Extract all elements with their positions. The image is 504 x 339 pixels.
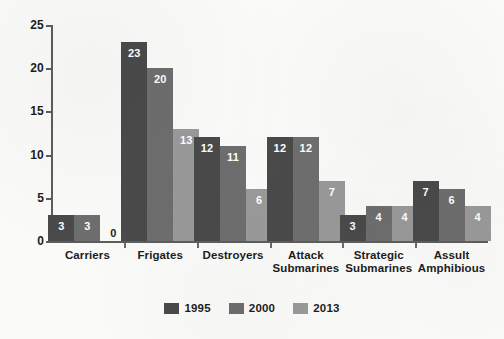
bar-group-bars: 344: [340, 25, 418, 241]
x-tick-mark: [124, 243, 126, 248]
bar-value-label: 4: [366, 211, 392, 223]
x-tick-mark: [197, 243, 199, 248]
bar-value-label: 12: [267, 142, 293, 154]
x-tick-mark: [342, 243, 344, 248]
bar-value-label: 7: [413, 186, 439, 198]
bar-group: 330Carriers: [48, 25, 126, 241]
y-tick-label: 20: [30, 61, 44, 75]
x-tick-mark: [415, 243, 417, 248]
legend-label: 2013: [313, 302, 339, 314]
chart-legend: 199520002013: [0, 302, 504, 314]
bar-value-label: 12: [293, 142, 319, 154]
bar-value-label: 20: [147, 73, 173, 85]
bar-value-label: 4: [465, 211, 491, 223]
bar: 4: [465, 206, 491, 241]
legend-item: 1995: [164, 302, 210, 314]
bar-value-label: 12: [194, 142, 220, 154]
bar-value-label: 3: [74, 220, 100, 232]
y-tick-mark: [46, 241, 52, 243]
bar-group-bars: 232013: [121, 25, 199, 241]
bar-value-label: 3: [340, 220, 366, 232]
bar-group: 12116Destroyers: [194, 25, 272, 241]
bar-chart: 0510152025 330Carriers232013Frigates1211…: [0, 0, 504, 339]
bar: 12: [293, 137, 319, 241]
legend-item: 2000: [229, 302, 275, 314]
y-tick-label: 25: [30, 18, 44, 32]
legend-item: 2013: [293, 302, 339, 314]
bar: 3: [74, 215, 100, 241]
bar-group: 764Assult Amphibious: [413, 25, 491, 241]
bar-group: 344Strategic Submarines: [340, 25, 418, 241]
bar: 7: [413, 181, 439, 241]
bar-value-label: 3: [48, 220, 74, 232]
x-tick-mark: [270, 243, 272, 248]
y-tick-label: 5: [37, 191, 44, 205]
legend-label: 1995: [184, 302, 210, 314]
bar-group: 232013Frigates: [121, 25, 199, 241]
legend-swatch: [164, 303, 179, 314]
bar: 3: [340, 215, 366, 241]
bar: 20: [147, 68, 173, 241]
category-label: Destroyers: [203, 249, 264, 262]
y-tick-label: 0: [37, 234, 44, 248]
legend-swatch: [293, 303, 308, 314]
y-tick-label: 15: [30, 104, 44, 118]
bar-group-bars: 12116: [194, 25, 272, 241]
category-label: Attack Submarines: [272, 249, 339, 275]
bar: 6: [439, 189, 465, 241]
bar-value-label: 23: [121, 47, 147, 59]
bar: 12: [267, 137, 293, 241]
category-label: Strategic Submarines: [345, 249, 412, 275]
legend-label: 2000: [249, 302, 275, 314]
bar: 4: [366, 206, 392, 241]
category-label: Carriers: [65, 249, 110, 262]
bar: 11: [220, 146, 246, 241]
y-tick-label: 10: [30, 148, 44, 162]
category-label: Assult Amphibious: [418, 249, 485, 275]
bar-group-bars: 12127: [267, 25, 345, 241]
bar: 12: [194, 137, 220, 241]
bar: 3: [48, 215, 74, 241]
bar-value-label: 11: [220, 151, 246, 163]
bar-value-label: 6: [439, 194, 465, 206]
bar-group: 12127Attack Submarines: [267, 25, 345, 241]
plot-area: 0510152025 330Carriers232013Frigates1211…: [51, 25, 488, 242]
category-label: Frigates: [137, 249, 183, 262]
legend-swatch: [229, 303, 244, 314]
bar: 23: [121, 42, 147, 241]
bar-group-bars: 764: [413, 25, 491, 241]
bar-group-bars: 330: [48, 25, 126, 241]
